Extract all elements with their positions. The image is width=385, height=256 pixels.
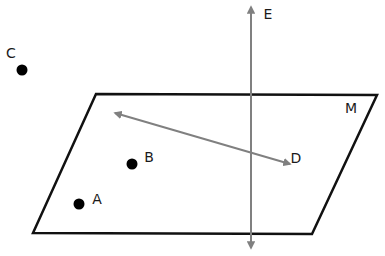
- geometry-diagram: [0, 0, 385, 256]
- line-d: [115, 113, 290, 164]
- point-a: [74, 199, 85, 210]
- plane-m: [33, 94, 377, 234]
- line-label-d: D: [291, 151, 302, 165]
- point-b: [127, 159, 138, 170]
- point-c: [17, 65, 28, 76]
- point-label-b: B: [144, 150, 154, 164]
- point-label-a: A: [92, 192, 102, 206]
- plane-label-m: M: [345, 101, 357, 115]
- point-label-c: C: [6, 46, 16, 60]
- line-label-e: E: [264, 7, 273, 21]
